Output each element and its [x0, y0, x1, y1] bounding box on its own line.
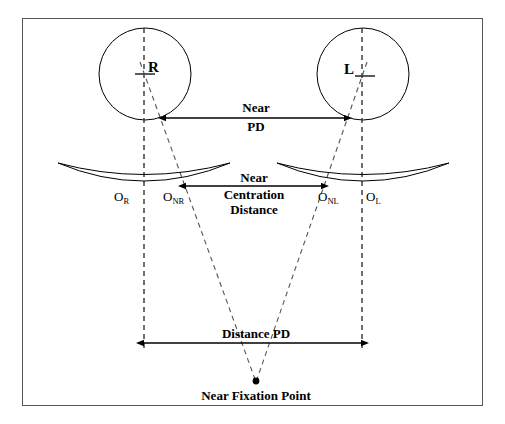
- optical-centre-ONR: ONR: [163, 190, 184, 204]
- distance-pd-label: Distance PD: [222, 327, 290, 341]
- right-eye-label: R: [148, 60, 159, 76]
- left-lens-shape: [277, 163, 449, 181]
- near-centration-label-line2: Centration: [224, 188, 285, 202]
- optical-centre-ONL-sub: NL: [327, 196, 338, 206]
- near-pd-label-line2: PD: [247, 120, 264, 134]
- near-fixation-point-label: Near Fixation Point: [201, 389, 311, 403]
- near-centration-label-line3: Distance: [230, 203, 278, 217]
- optical-centre-OR-sub: R: [123, 196, 129, 206]
- optical-centre-ONL: ONL: [318, 190, 339, 204]
- optical-centre-ONR-sub: NR: [172, 196, 184, 206]
- optical-centre-ONL-base: O: [318, 189, 327, 204]
- optical-centre-OL: OL: [366, 190, 381, 204]
- optical-centre-OR: OR: [114, 190, 129, 204]
- optical-centre-OL-sub: L: [375, 196, 380, 206]
- optical-centre-ONR-base: O: [163, 189, 172, 204]
- optical-centre-OL-base: O: [366, 189, 375, 204]
- near-pd-label-line1: Near: [242, 101, 269, 115]
- optical-centre-OR-base: O: [114, 189, 123, 204]
- near-centration-label-line1: Near: [240, 171, 267, 185]
- figure-stage: R L OR ONR ONL OL Near PD Near Centratio…: [0, 0, 505, 424]
- left-eye-label: L: [344, 62, 354, 78]
- near-fixation-point-dot: [253, 378, 260, 385]
